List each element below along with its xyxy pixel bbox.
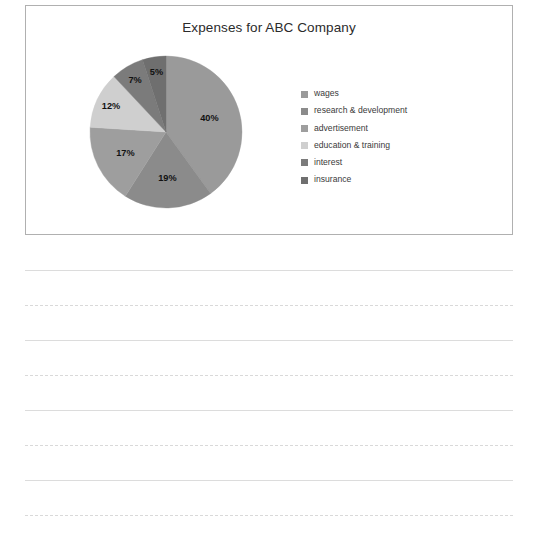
- legend-item-label: advertisement: [314, 124, 368, 133]
- legend-item[interactable]: insurance: [301, 171, 501, 188]
- legend-swatch-icon: [301, 91, 308, 98]
- paper-rule-line: [25, 305, 513, 306]
- legend-item-label: education & training: [314, 141, 390, 150]
- legend-item[interactable]: wages: [301, 85, 501, 102]
- paper-rule-line: [25, 410, 513, 411]
- legend-item[interactable]: advertisement: [301, 119, 501, 136]
- paper-rule-line: [25, 340, 513, 341]
- pie-slice-label: 19%: [158, 173, 176, 183]
- pie-slice-label: 17%: [116, 148, 134, 158]
- legend-item-label: insurance: [314, 175, 351, 184]
- legend-swatch-icon: [301, 142, 308, 149]
- pie-slice-label: 40%: [200, 113, 218, 123]
- legend-item[interactable]: research & development: [301, 102, 501, 119]
- legend-swatch-icon: [301, 159, 308, 166]
- pie-slice-label: 12%: [102, 101, 120, 111]
- legend-swatch-icon: [301, 177, 308, 184]
- paper-rule-line: [25, 270, 513, 271]
- pie-slice-label: 7%: [128, 75, 141, 85]
- pie-slice-label: 5%: [150, 67, 163, 77]
- paper-rule-line: [25, 515, 513, 516]
- chart-panel: Expenses for ABC Company 40%19%17%12%7%5…: [25, 5, 513, 235]
- legend-item[interactable]: interest: [301, 154, 501, 171]
- paper-rule-line: [25, 480, 513, 481]
- legend-item-label: research & development: [314, 106, 407, 115]
- legend-item-label: interest: [314, 158, 342, 167]
- paper-rule-line: [25, 375, 513, 376]
- pie-chart: 40%19%17%12%7%5%: [86, 52, 246, 212]
- pie-chart-svg: 40%19%17%12%7%5%: [86, 52, 246, 212]
- chart-legend: wagesresearch & developmentadvertisement…: [301, 85, 501, 188]
- legend-item[interactable]: education & training: [301, 137, 501, 154]
- legend-swatch-icon: [301, 108, 308, 115]
- chart-title: Expenses for ABC Company: [26, 20, 512, 35]
- legend-item-label: wages: [314, 89, 339, 98]
- legend-swatch-icon: [301, 125, 308, 132]
- pie-slices: [90, 56, 242, 208]
- paper-rule-line: [25, 445, 513, 446]
